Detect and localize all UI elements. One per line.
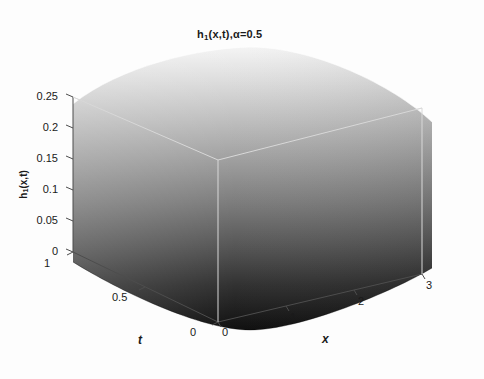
x-tick-label-3: 3 xyxy=(426,280,432,291)
z-axis-ticks xyxy=(66,94,73,252)
x-axis-title: x xyxy=(322,333,329,345)
figure-canvas: h1(x,t),α=0.5 0.25 0.2 0.15 0.1 0.05 0 h… xyxy=(0,0,484,379)
z-axis-title-function: h xyxy=(18,193,29,199)
z-tick-label-0: 0.25 xyxy=(12,91,58,102)
t-axis-title: t xyxy=(138,334,142,346)
z-axis-title-rest: (x,t) xyxy=(18,170,29,188)
surface-plot-3d xyxy=(0,0,484,379)
page-title: h1(x,t),α=0.5 xyxy=(197,29,262,42)
x-tick-label-1: 1 xyxy=(290,312,296,323)
t-tick-label-2: 0 xyxy=(190,327,196,338)
t-tick-label-0: 1 xyxy=(44,258,50,269)
z-axis-title-subscript: 1 xyxy=(21,189,30,193)
t-tick-label-1: 0.5 xyxy=(112,292,127,303)
z-tick-label-4: 0.05 xyxy=(12,215,58,226)
title-function: h xyxy=(197,28,204,40)
x-tick-label-2: 2 xyxy=(358,296,364,307)
title-rest: (x,t),α=0.5 xyxy=(209,28,263,40)
z-tick-label-1: 0.2 xyxy=(12,122,58,133)
z-tick-label-5: 0 xyxy=(12,246,58,257)
z-axis-title: h1(x,t) xyxy=(18,154,31,214)
surface-shading-overlay xyxy=(73,47,432,330)
x-tick-label-0: 0 xyxy=(222,327,228,338)
surface-mesh xyxy=(73,47,432,330)
